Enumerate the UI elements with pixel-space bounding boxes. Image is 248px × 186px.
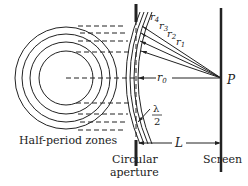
label-point-p: P bbox=[226, 73, 236, 87]
label-r4: r4 bbox=[150, 11, 159, 24]
label-aperture-line1: Circular bbox=[112, 153, 159, 166]
label-lambda: λ bbox=[153, 103, 160, 114]
label-distance-l: L bbox=[174, 136, 183, 150]
label-aperture-line2: aperture bbox=[110, 166, 159, 179]
label-screen: Screen bbox=[203, 153, 242, 166]
projection-lines bbox=[66, 20, 136, 140]
fresnel-zone-diagram: r4 r3 r2 r1 r0 P L λ 2 Half-period zones… bbox=[0, 0, 248, 186]
label-two: 2 bbox=[154, 116, 160, 127]
label-r1: r1 bbox=[176, 36, 185, 49]
ray-lines bbox=[138, 26, 221, 78]
label-half-period-zones: Half-period zones bbox=[19, 134, 118, 147]
